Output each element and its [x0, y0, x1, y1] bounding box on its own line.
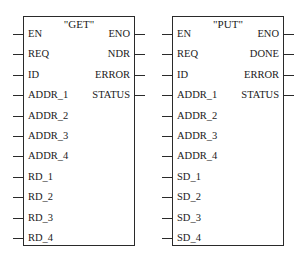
input-wire — [13, 238, 23, 239]
input-pin-label: EN — [177, 28, 191, 40]
input-wire — [13, 177, 23, 178]
input-pin-label: ADDR_4 — [28, 150, 68, 162]
input-wire — [162, 136, 172, 137]
input-wire — [13, 197, 23, 198]
input-wire — [13, 218, 23, 219]
output-wire — [284, 75, 294, 76]
input-wire — [13, 116, 23, 117]
input-pin-label: ID — [28, 69, 39, 81]
input-wire — [13, 136, 23, 137]
input-pin-label: ADDR_4 — [177, 150, 217, 162]
input-pin-label: SD_4 — [177, 232, 201, 244]
output-pin-label: STATUS — [92, 89, 130, 101]
input-pin-label: REQ — [177, 48, 198, 60]
output-pin-label: ENO — [257, 28, 279, 40]
input-wire — [162, 197, 172, 198]
input-wire — [162, 177, 172, 178]
input-wire — [13, 75, 23, 76]
input-pin-label: ADDR_2 — [177, 110, 217, 122]
input-wire — [162, 75, 172, 76]
output-pin-label: ENO — [108, 28, 130, 40]
input-pin-label: RD_3 — [28, 212, 53, 224]
output-wire — [135, 54, 145, 55]
input-pin-label: ADDR_3 — [177, 130, 217, 142]
input-wire — [162, 54, 172, 55]
output-wire — [135, 75, 145, 76]
input-pin-label: SD_2 — [177, 191, 201, 203]
input-wire — [13, 95, 23, 96]
output-wire — [135, 34, 145, 35]
input-wire — [13, 156, 23, 157]
input-pin-label: RD_1 — [28, 171, 53, 183]
output-pin-label: STATUS — [241, 89, 279, 101]
output-wire — [135, 95, 145, 96]
input-pin-label: ID — [177, 69, 188, 81]
function-block-get: "GET"ENREQIDADDR_1ADDR_2ADDR_3ADDR_4RD_1… — [23, 16, 135, 246]
output-pin-label: DONE — [250, 48, 279, 60]
output-pin-label: ERROR — [95, 69, 130, 81]
function-block-put: "PUT"ENREQIDADDR_1ADDR_2ADDR_3ADDR_4SD_1… — [172, 16, 284, 246]
output-wire — [284, 95, 294, 96]
input-pin-label: ADDR_2 — [28, 110, 68, 122]
output-wire — [284, 54, 294, 55]
output-wire — [284, 34, 294, 35]
input-pin-label: ADDR_1 — [28, 89, 68, 101]
input-pin-label: EN — [28, 28, 42, 40]
input-pin-label: ADDR_1 — [177, 89, 217, 101]
input-pin-label: SD_3 — [177, 212, 201, 224]
input-wire — [162, 156, 172, 157]
input-wire — [162, 34, 172, 35]
input-pin-label: RD_2 — [28, 191, 53, 203]
output-pin-label: ERROR — [244, 69, 279, 81]
input-wire — [13, 54, 23, 55]
input-wire — [162, 116, 172, 117]
input-pin-label: RD_4 — [28, 232, 53, 244]
input-pin-label: REQ — [28, 48, 49, 60]
input-wire — [162, 95, 172, 96]
input-wire — [162, 218, 172, 219]
input-pin-label: SD_1 — [177, 171, 201, 183]
input-pin-label: ADDR_3 — [28, 130, 68, 142]
input-wire — [162, 238, 172, 239]
output-pin-label: NDR — [108, 48, 130, 60]
input-wire — [13, 34, 23, 35]
